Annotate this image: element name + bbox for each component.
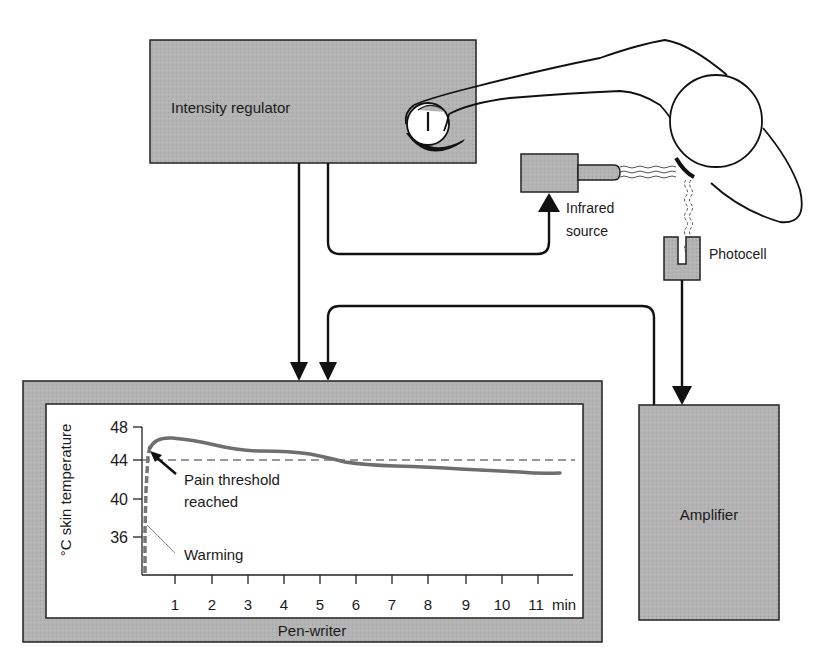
x-tick-label: 4 (280, 596, 288, 613)
warming-annotation: Warming (184, 546, 243, 563)
arrowheads (290, 193, 692, 405)
amplifier: Amplifier (639, 405, 779, 620)
y-tick-label: 44 (110, 452, 128, 469)
photocell: Photocell (664, 237, 767, 280)
apparatus-diagram: Intensity regulator Infrared so (0, 0, 829, 664)
infrared-source-label-1: Infrared (566, 200, 614, 216)
x-tick-label: 8 (424, 596, 432, 613)
amplifier-label: Amplifier (680, 506, 738, 523)
infrared-source: Infrared source (521, 154, 676, 239)
arrow-down-icon (319, 362, 337, 381)
x-tick-label: 2 (208, 596, 216, 613)
arrow-down-icon (672, 386, 692, 405)
signal-lines (299, 163, 682, 405)
infrared-waves-icon (620, 166, 676, 178)
y-tick-label: 36 (110, 529, 128, 546)
x-tick-label: 10 (494, 596, 511, 613)
x-tick-label: 7 (388, 596, 396, 613)
x-tick-label: 6 (352, 596, 360, 613)
intensity-regulator: Intensity regulator (150, 40, 476, 163)
infrared-source-label-2: source (566, 223, 608, 239)
pen-writer-label: Pen-writer (278, 622, 346, 639)
x-tick-label: 9 (462, 596, 470, 613)
photocell-label: Photocell (709, 246, 767, 262)
pain-threshold-annotation-1: Pain threshold (184, 471, 280, 488)
y-tick-label: 40 (110, 491, 128, 508)
x-tick-label: 3 (244, 596, 252, 613)
y-axis-label: °C skin temperature (57, 424, 74, 557)
x-tick-label: 5 (316, 596, 324, 613)
y-tick-label: 48 (110, 419, 128, 436)
x-tick-label: 1 (171, 596, 179, 613)
pain-threshold-annotation-2: reached (184, 493, 238, 510)
x-tick-label: 11 (528, 596, 544, 613)
intensity-regulator-label: Intensity regulator (171, 99, 290, 116)
x-unit-label: min (552, 596, 576, 613)
arrow-down-icon (290, 362, 308, 381)
arrow-up-icon (538, 193, 560, 212)
